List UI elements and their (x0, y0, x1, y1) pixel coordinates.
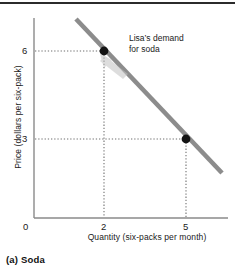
x-axis-title: Quantity (six-packs per month) (62, 232, 232, 242)
origin-tick-label: 0 (23, 221, 28, 232)
y-axis-tick-label-3: 3 (22, 133, 27, 144)
data-point-marker-b (182, 135, 191, 144)
curve-annotation: Lisa’s demand for soda (129, 33, 229, 55)
x-axis-tick-label-2: 2 (101, 221, 106, 232)
curve-annotation-line-2: for soda (129, 44, 229, 55)
curve-annotation-line-1: Lisa’s demand (129, 33, 229, 44)
y-axis-title: Price (dollars per six-pack) (13, 47, 23, 187)
figure-caption: (a) Soda (6, 254, 45, 265)
y-axis-tick-label-6: 6 (22, 45, 27, 56)
data-point-marker-a (100, 47, 109, 56)
figure-container: Price (dollars per six-pack) Quantity (s… (0, 0, 235, 274)
x-axis-tick-label-5: 5 (183, 221, 188, 232)
